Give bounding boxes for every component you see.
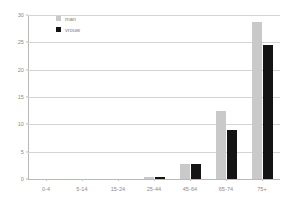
legend-swatch-icon (56, 27, 61, 32)
bar-group (136, 15, 172, 179)
chart-legend: manvrouw (56, 13, 80, 35)
x-axis-tick-label: 45-64 (172, 186, 208, 192)
y-axis-tick-label: 20 (18, 67, 24, 73)
x-axis-tick (154, 179, 155, 181)
bar-man-75+ (252, 22, 262, 179)
x-axis-tick-label: 0-4 (28, 186, 64, 192)
x-axis-tick (226, 179, 227, 181)
legend-item-vrouw: vrouw (56, 24, 80, 35)
bar-man-25-44 (144, 177, 154, 179)
bar-vrouw-65-74 (227, 130, 237, 179)
bar-group (244, 15, 280, 179)
y-axis-tick-label: 5 (21, 149, 24, 155)
bar-group (28, 15, 64, 179)
x-axis-tick-label: 15-24 (100, 186, 136, 192)
legend-label: man (65, 16, 76, 22)
legend-item-man: man (56, 13, 80, 24)
legend-label: vrouw (65, 27, 80, 33)
x-axis-tick-label: 25-44 (136, 186, 172, 192)
x-axis-tick (118, 179, 119, 181)
bar-group (172, 15, 208, 179)
bar-vrouw-25-44 (155, 177, 165, 179)
bar-chart: 051015202530 manvrouw 0-45-1415-2425-444… (0, 0, 286, 207)
y-axis-tick-label: 15 (18, 94, 24, 100)
bar-group (100, 15, 136, 179)
x-axis-tick (46, 179, 47, 181)
x-axis-tick (262, 179, 263, 181)
bar-man-65-74 (216, 111, 226, 179)
bar-group (64, 15, 100, 179)
bar-man-45-64 (180, 164, 190, 179)
y-axis-tick-label: 25 (18, 39, 24, 45)
y-axis-tick-label: 0 (21, 176, 24, 182)
y-axis-tick-label: 10 (18, 121, 24, 127)
plot-area: 051015202530 (28, 15, 280, 179)
x-axis-tick-label: 5-14 (64, 186, 100, 192)
bar-vrouw-75+ (263, 45, 273, 179)
x-axis-tick-label: 65-74 (208, 186, 244, 192)
x-axis-tick (190, 179, 191, 181)
x-axis-tick-label: 75+ (244, 186, 280, 192)
bar-vrouw-45-64 (191, 164, 201, 179)
legend-swatch-icon (56, 16, 61, 21)
y-axis-tick-label: 30 (18, 12, 24, 18)
x-axis-tick (82, 179, 83, 181)
bar-group (208, 15, 244, 179)
